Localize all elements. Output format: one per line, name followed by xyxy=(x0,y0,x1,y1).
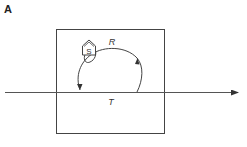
loop-label: R xyxy=(109,37,116,47)
loop-arrow-down-icon xyxy=(77,84,83,90)
house-label: S xyxy=(86,47,91,56)
line-label: T xyxy=(108,97,115,107)
diagram-canvas: S R T xyxy=(0,0,247,147)
